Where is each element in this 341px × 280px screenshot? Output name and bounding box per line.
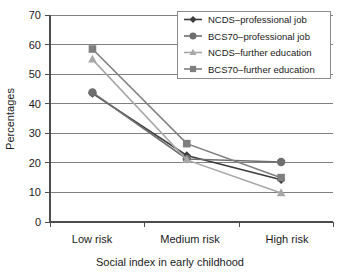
y-tick-label-50: 50 [29, 68, 41, 80]
y-tick-label-0: 0 [35, 216, 41, 228]
y-tick-label-20: 20 [29, 157, 41, 169]
y-tick-label-10: 10 [29, 186, 41, 198]
legend-label-2: NCDS–further education [208, 47, 312, 58]
x-axis-title: Social index in early childhood [96, 256, 244, 268]
y-tick-label-70: 70 [29, 9, 41, 21]
x-tick-label-low-risk: Low risk [72, 233, 113, 245]
legend-label-1: BCS70–professional job [208, 31, 310, 42]
legend-marker-circle-icon [190, 33, 197, 40]
y-tick-labels: 70 60 50 40 30 20 10 0 [29, 9, 41, 228]
y-axis-title: Percentages [4, 88, 16, 150]
data-point-square [89, 45, 97, 53]
chart-container: 70 60 50 40 30 20 10 0 Percentages Low r… [0, 0, 341, 280]
line-chart: 70 60 50 40 30 20 10 0 Percentages Low r… [0, 0, 341, 280]
data-point-circle [88, 88, 96, 96]
x-tick-label-medium-risk: Medium risk [160, 233, 220, 245]
x-tick-label-high-risk: High risk [266, 233, 309, 245]
x-tick-labels: Low risk Medium risk High risk [72, 233, 309, 245]
y-tick-label-60: 60 [29, 39, 41, 51]
y-tick-label-30: 30 [29, 127, 41, 139]
legend: NCDS–professional job BCS70–professional… [177, 11, 330, 78]
x-tick-marks [50, 222, 333, 227]
y-tick-label-40: 40 [29, 98, 41, 110]
data-point-circle [277, 158, 285, 166]
legend-label-0: NCDS–professional job [208, 14, 307, 25]
data-point-triangle [88, 55, 97, 63]
legend-marker-square-icon [190, 66, 196, 72]
data-point-square [183, 140, 191, 148]
y-tick-marks [45, 15, 50, 222]
legend-label-3: BCS70–further education [208, 64, 315, 75]
data-point-square [277, 174, 285, 182]
